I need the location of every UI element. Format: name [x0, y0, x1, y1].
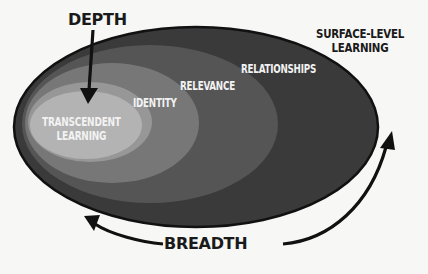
depth-label: DEPTH: [68, 12, 127, 28]
surface-level-label-line1: SURFACE-LEVEL: [316, 27, 404, 41]
identity-label: IDENTITY: [133, 97, 177, 110]
breadth-label: BREADTH: [164, 236, 247, 252]
relationships-label: RELATIONSHIPS: [241, 63, 316, 76]
surface-level-label-line2: LEARNING: [316, 41, 404, 55]
transcendent-label-line1: TRANSCENDENT: [42, 115, 121, 129]
learning-depth-breadth-diagram: DEPTH SURFACE-LEVEL LEARNING RELATIONSHI…: [0, 0, 428, 274]
transcendent-label-line2: LEARNING: [42, 129, 121, 143]
relevance-label: RELEVANCE: [180, 80, 235, 93]
transcendent-label: TRANSCENDENT LEARNING: [42, 115, 121, 143]
surface-level-label: SURFACE-LEVEL LEARNING: [316, 27, 404, 55]
